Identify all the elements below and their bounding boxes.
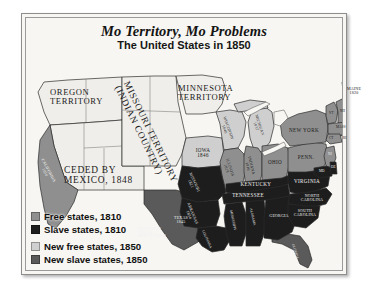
region-new-york (280, 110, 328, 146)
label-rhode-island: RI (343, 137, 347, 141)
map-legend: Free states, 1810 Slave states, 1810 New… (31, 210, 147, 266)
region-connecticut (326, 134, 342, 144)
map-subtitle: The United States in 1850 (22, 39, 346, 51)
region-missouri-territory (122, 76, 186, 166)
region-missouri-state (178, 166, 226, 202)
region-minnesota-territory (176, 75, 226, 114)
label-maine: MAINE 1820 (347, 87, 361, 95)
region-delaware (330, 162, 337, 174)
region-south-carolina (288, 204, 320, 228)
region-alabama (246, 200, 266, 246)
legend-swatch-new-free-1850 (31, 242, 40, 251)
legend-swatch-free-1810 (31, 212, 40, 221)
legend-item-free-1810: Free states, 1810 (31, 210, 147, 223)
region-iowa (182, 136, 224, 168)
legend-label-new-slave-1850: New slave states, 1850 (44, 254, 147, 265)
legend-label-new-free-1850: New free states, 1850 (44, 241, 141, 252)
region-louisiana (196, 226, 230, 252)
legend-swatch-new-slave-1850 (31, 255, 40, 264)
legend-item-new-slave-1850: New slave states, 1850 (31, 253, 147, 266)
region-vermont (326, 102, 338, 124)
map-figure: Mo Territory, Mo Problems The United Sta… (21, 13, 347, 275)
region-oregon-territory (38, 77, 122, 125)
region-arkansas (180, 198, 220, 228)
legend-item-slave-1810: Slave states, 1810 (31, 223, 147, 236)
legend-swatch-slave-1810 (31, 225, 40, 234)
legend-label-free-1810: Free states, 1810 (44, 211, 121, 222)
legend-item-new-free-1850: New free states, 1850 (31, 240, 147, 253)
legend-label-slave-1810: Slave states, 1810 (44, 224, 126, 235)
region-maryland (314, 166, 332, 178)
map-title: Mo Territory, Mo Problems (22, 23, 346, 40)
